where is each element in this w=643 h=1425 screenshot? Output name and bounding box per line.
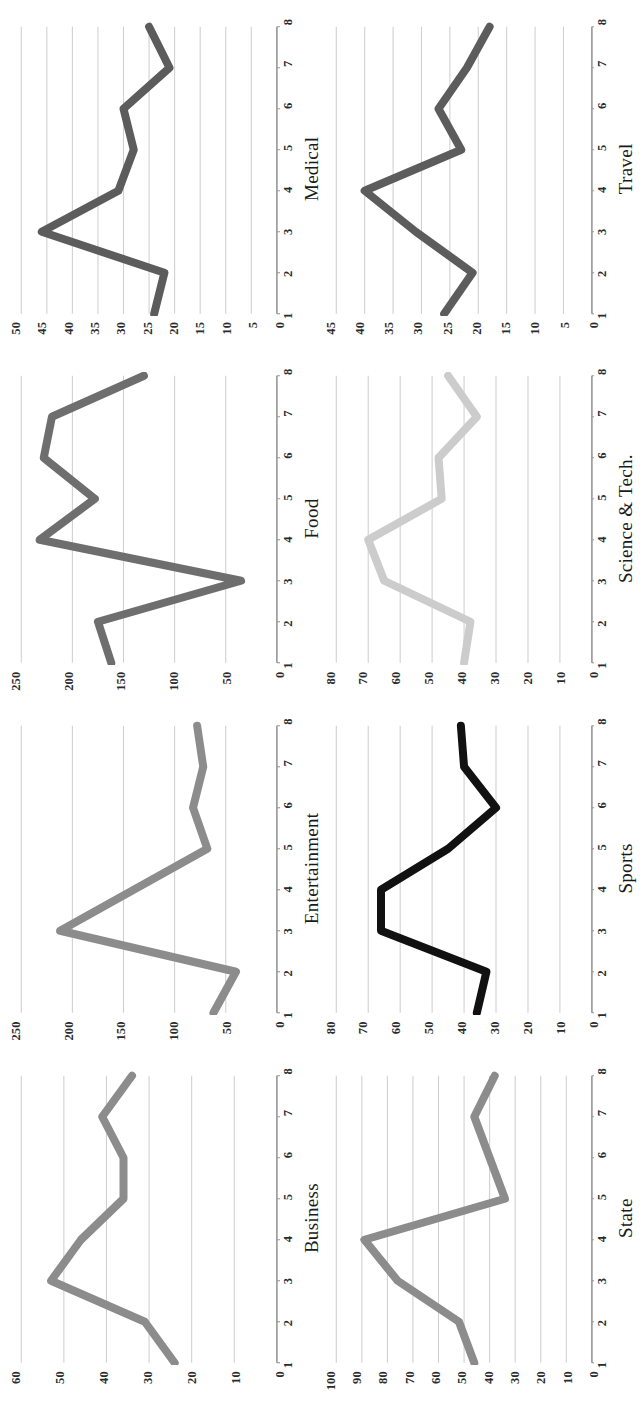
y-tick-label: 80 (376, 1371, 391, 1384)
y-tick-label: 30 (488, 1021, 503, 1034)
x-tick-label: 8 (281, 19, 296, 25)
x-tick-label: 6 (595, 453, 610, 459)
y-tick-label: 30 (507, 1371, 522, 1384)
x-tick-label: 2 (595, 271, 610, 277)
x-tick-label: 4 (281, 886, 296, 892)
plot-area: 0102030405060 (16, 1071, 280, 1409)
x-tick-label: 1 (281, 1012, 296, 1018)
chart-panel: 05010015020025012345678Entertainment (10, 716, 325, 1066)
x-tick-label: 2 (281, 970, 296, 976)
data-series-line (380, 726, 495, 1013)
chart-canvas (331, 372, 595, 666)
y-tick-label: 20 (521, 672, 536, 685)
y-tick-label: 100 (167, 1021, 182, 1040)
y-tick-label: 10 (228, 1371, 243, 1384)
y-tick-label: 40 (455, 672, 470, 685)
chart-title: Science & Tech. (612, 372, 637, 666)
y-tick-label: 20 (184, 1371, 199, 1384)
data-series-line (40, 376, 241, 663)
x-tick-label: 3 (595, 578, 610, 584)
y-tick-label: 0 (272, 672, 287, 678)
chart-title: Food (298, 372, 323, 666)
y-tick-label: 40 (455, 1021, 470, 1034)
y-tick-label: 0 (587, 1371, 602, 1377)
x-tick-label: 3 (281, 229, 296, 235)
x-tick-label: 2 (595, 1320, 610, 1326)
y-tick-label: 50 (455, 1371, 470, 1384)
chart-panel-grid: 010203040506012345678Business05010015020… (0, 0, 643, 1425)
y-tick-label: 0 (587, 322, 602, 328)
y-axis: 05101520253035404550 (16, 316, 280, 360)
y-tick-label: 0 (272, 322, 287, 328)
y-tick-label: 50 (219, 672, 234, 685)
x-tick-label: 8 (281, 1068, 296, 1074)
data-series-line (60, 726, 236, 1013)
y-tick-label: 25 (440, 322, 455, 335)
x-tick-label: 2 (281, 1320, 296, 1326)
y-tick-label: 0 (272, 1021, 287, 1027)
x-tick-label: 6 (281, 103, 296, 109)
x-tick-label: 7 (281, 61, 296, 67)
chart-panel: 0510152025303540455012345678Medical (10, 16, 325, 366)
chart-title: State (612, 1071, 637, 1365)
chart-canvas (16, 22, 280, 316)
y-tick-label: 35 (382, 322, 397, 335)
data-series-line (368, 376, 477, 663)
x-tick-label: 1 (595, 313, 610, 319)
x-tick-label: 5 (595, 1194, 610, 1200)
x-tick-label: 5 (281, 1194, 296, 1200)
x-tick-label: 7 (281, 760, 296, 766)
y-tick-label: 40 (352, 322, 367, 335)
x-tick-label: 1 (281, 313, 296, 319)
x-tick-label: 3 (281, 578, 296, 584)
x-tick-label: 4 (595, 886, 610, 892)
y-tick-label: 15 (499, 322, 514, 335)
plot-area: 01020304050607080 (331, 372, 595, 710)
y-tick-label: 200 (61, 672, 76, 691)
chart-canvas (16, 722, 280, 1016)
y-tick-label: 250 (9, 672, 24, 691)
x-tick-label: 1 (281, 1362, 296, 1368)
plot-area: 051015202530354045 (331, 22, 595, 360)
plot-area: 050100150200250 (16, 372, 280, 710)
chart-canvas (16, 1071, 280, 1365)
chart-canvas (16, 372, 280, 666)
x-tick-label: 1 (595, 662, 610, 668)
data-series-line (364, 27, 489, 314)
y-tick-label: 20 (167, 322, 182, 335)
y-tick-label: 50 (422, 1021, 437, 1034)
plot-area: 050100150200250 (16, 722, 280, 1060)
y-axis: 0102030405060708090100 (331, 1365, 595, 1409)
y-tick-label: 0 (587, 672, 602, 678)
x-tick-label: 7 (281, 1110, 296, 1116)
x-tick-label: 8 (281, 718, 296, 724)
x-tick-label: 2 (595, 970, 610, 976)
x-tick-label: 8 (595, 718, 610, 724)
y-tick-label: 250 (9, 1021, 24, 1040)
y-tick-label: 40 (96, 1371, 111, 1384)
chart-panel: 0102030405060708012345678Sports (325, 716, 640, 1066)
x-tick-label: 7 (595, 411, 610, 417)
y-tick-label: 70 (356, 672, 371, 685)
x-tick-label: 1 (595, 1362, 610, 1368)
y-tick-label: 5 (246, 322, 261, 328)
y-tick-label: 150 (114, 1021, 129, 1040)
x-tick-label: 5 (281, 145, 296, 151)
chart-canvas (331, 22, 595, 316)
x-tick-label: 4 (595, 1236, 610, 1242)
y-tick-label: 25 (140, 322, 155, 335)
y-tick-label: 40 (481, 1371, 496, 1384)
x-tick-label: 7 (595, 760, 610, 766)
y-tick-label: 60 (389, 1021, 404, 1034)
y-tick-label: 30 (114, 322, 129, 335)
chart-title: Medical (298, 22, 323, 316)
y-axis: 050100150200250 (16, 1015, 280, 1059)
y-tick-label: 10 (554, 1021, 569, 1034)
chart-canvas (331, 722, 595, 1016)
x-tick-label: 6 (595, 802, 610, 808)
y-tick-label: 100 (323, 1371, 338, 1390)
x-tick-label: 6 (281, 802, 296, 808)
x-axis: 12345678 (594, 722, 612, 1016)
x-tick-label: 2 (281, 271, 296, 277)
y-tick-label: 50 (422, 672, 437, 685)
